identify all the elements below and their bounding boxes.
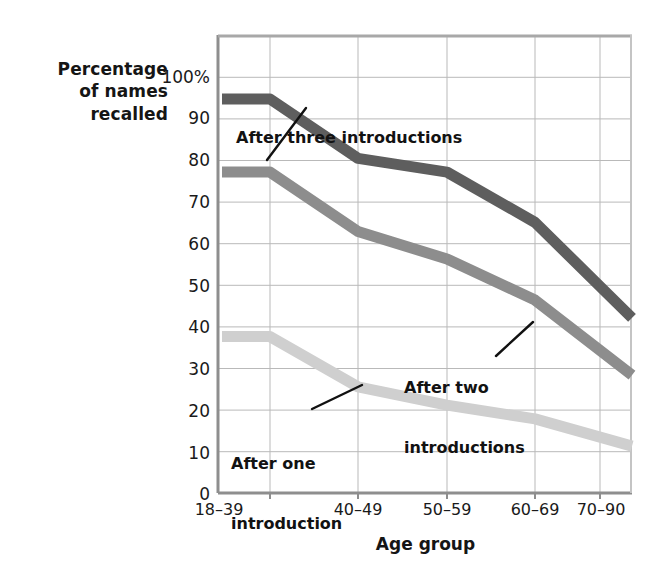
annotation-after-two-introductions-line-2: introductions [404, 438, 525, 458]
annotation-after-three-introductions-label: After three introductions [236, 128, 462, 148]
annotation-after-three-introductions: After three introductions [236, 88, 462, 188]
x-tick-60-69: 60–69 [511, 500, 560, 519]
annotation-after-one-introduction-line-2: introduction [231, 514, 342, 534]
x-tick-70-90: 70–90 [577, 500, 626, 519]
annotation-after-two-introductions: After two introductions [404, 338, 525, 498]
x-tick-50-59: 50–59 [423, 500, 472, 519]
annotation-after-one-introduction-line-1: After one [231, 454, 342, 474]
annotation-after-one-introduction: After one introduction [231, 414, 342, 574]
annotation-after-two-introductions-line-1: After two [404, 378, 525, 398]
chart-figure: Percentage of names recalled 100% 90 80 … [0, 0, 665, 586]
